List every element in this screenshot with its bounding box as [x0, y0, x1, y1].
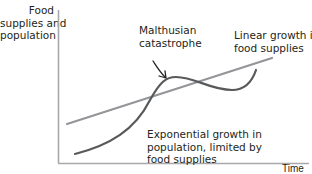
malthusian-arrow [153, 61, 165, 77]
malthusian-catastrophe-label: Malthusian catastrophe [139, 24, 202, 49]
exponential-growth-label: Exponential growth in population, limite… [147, 128, 262, 166]
linear-growth-label: Linear growth in food supplies [234, 29, 312, 54]
x-axis-label: Time [282, 163, 304, 174]
linear-food-supply-line [67, 58, 272, 124]
